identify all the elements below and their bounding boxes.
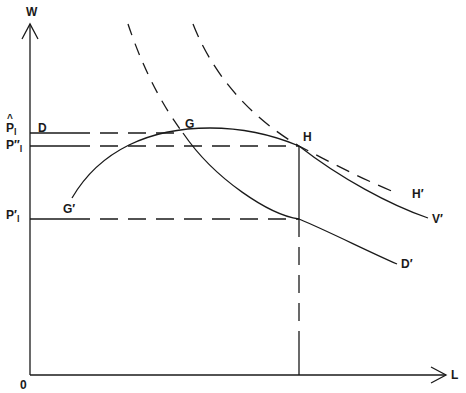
origin-label: 0: [20, 379, 27, 391]
point-h-label: H: [303, 131, 312, 143]
x-axis-label: L: [451, 369, 458, 381]
y-axis-label: W: [26, 6, 37, 18]
curve-g-prime-to-v-prime: [72, 128, 428, 218]
d-prime-label: D′: [401, 258, 413, 270]
point-g-label: G: [185, 118, 194, 130]
h-prime-label: H′: [412, 188, 424, 200]
p-hat-label: ^ Pl: [6, 122, 17, 137]
g-prime-label: G′: [63, 203, 75, 215]
v-prime-label: V′: [432, 213, 443, 225]
demand-curve-d-prime: [183, 133, 397, 264]
economic-diagram: [0, 0, 466, 393]
dashed-curve-through-g: [128, 24, 183, 133]
p-double-prime-label: P″l: [6, 139, 22, 154]
d-label: D: [38, 122, 47, 134]
p-prime-label: P′l: [6, 209, 19, 224]
dashed-curve-h-prime: [193, 24, 394, 192]
